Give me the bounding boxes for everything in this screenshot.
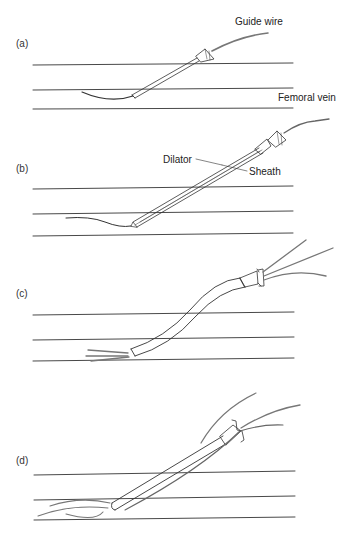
sheath-shaft-d-lower (115, 445, 224, 510)
guide-wire-b-proximal (284, 119, 329, 133)
wire-d-2 (201, 393, 256, 443)
vein-walls-b (33, 186, 293, 236)
wire-d-1 (241, 405, 300, 428)
sheath-hub-b (255, 139, 271, 154)
guide-wire-a-proximal (212, 33, 268, 51)
sheath-body-c-lower (135, 287, 245, 356)
guide-wire-a-distal (82, 92, 133, 99)
vein-walls-a (33, 63, 293, 109)
wires-d-distal (38, 500, 110, 517)
dilator-leader-line (196, 159, 222, 165)
vein-walls-d (34, 471, 295, 520)
panel-c-drawing (33, 240, 333, 361)
vein-walls-c (33, 312, 294, 361)
diagram-canvas (0, 0, 358, 537)
sheath-hub-d (220, 425, 241, 445)
sheath-shaft-d-upper (112, 436, 223, 503)
panel-d-drawing (34, 393, 300, 520)
guide-wire-b-distal (66, 218, 131, 227)
wires-c-proximal (263, 240, 333, 280)
wires-c-distal (86, 350, 129, 361)
panel-b-drawing (33, 119, 329, 236)
dilator-hub-b (268, 131, 286, 147)
panel-a-drawing (33, 33, 293, 109)
sheath-hub-c (240, 271, 258, 287)
